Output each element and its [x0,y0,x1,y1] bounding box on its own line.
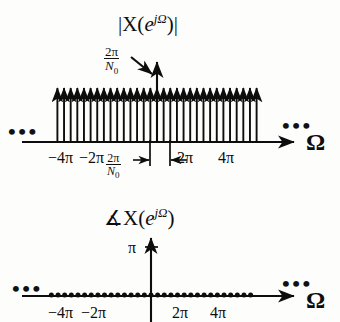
phase-sample-dot [89,293,94,298]
phase-sample-dot [195,293,200,298]
phase-sample-dot [129,293,134,298]
phase-sample-dot [188,293,193,298]
phase-sample-dot [208,293,213,298]
phase-sample-dot [135,293,140,298]
phase-sample-dot [228,293,233,298]
phase-sample-dot [122,293,127,298]
phase-sample-dot [149,293,154,298]
magnitude-axes [22,62,294,142]
phase-sample-dot [241,293,246,298]
phase-sample-dot [222,293,227,298]
phase-sample-dot [202,293,207,298]
phase-sample-dot [69,293,74,298]
phase-axes [22,238,294,322]
phase-sample-dot [155,293,160,298]
phase-sample-dot [175,293,180,298]
phase-sample-dot [235,293,240,298]
phase-sample-dot [56,293,61,298]
phase-sample-dot [215,293,220,298]
phase-sample-dot [62,293,67,298]
phase-sample-dot [142,293,147,298]
phase-sample-dot [75,293,80,298]
phase-sample-dot [182,293,187,298]
phase-sample-dot [248,293,253,298]
phase-sample-dot [102,293,107,298]
figure-container: |X(ejΩ)| 2π N0 2π N0 ••• ••• Ω −4π −2π 2… [0,0,340,322]
impulse-spacing-marker [133,140,187,166]
phase-sample-dots [49,293,253,298]
impulse-height-arrow [131,57,152,74]
phase-sample-dot [162,293,167,298]
phase-sample-dot [49,293,54,298]
plot-graphics [0,0,340,322]
impulse-train [57,88,256,142]
phase-sample-dot [168,293,173,298]
phase-sample-dot [109,293,114,298]
phase-sample-dot [82,293,87,298]
phase-sample-dot [115,293,120,298]
phase-sample-dot [95,293,100,298]
